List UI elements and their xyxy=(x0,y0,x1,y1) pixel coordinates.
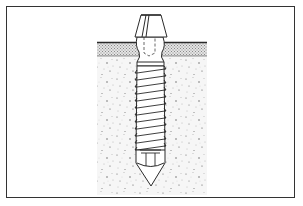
implant-body xyxy=(136,37,165,157)
implant-illustration xyxy=(0,0,303,206)
